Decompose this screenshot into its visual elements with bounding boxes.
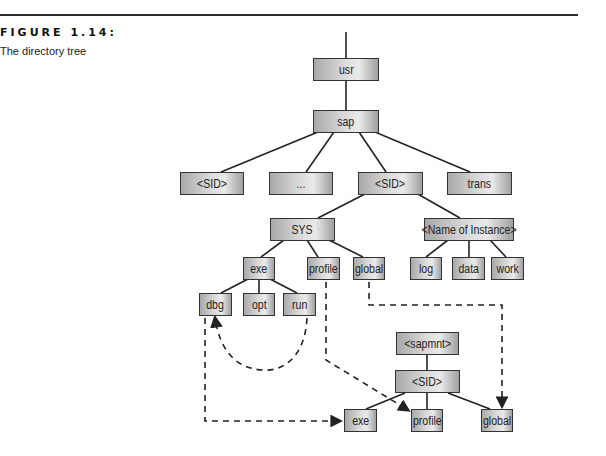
- node-global-2: global: [481, 409, 513, 432]
- node-exe: exe: [243, 257, 275, 280]
- node-sid-1: <SID>: [180, 172, 244, 195]
- node-log: log: [410, 257, 442, 280]
- node-dbg: dbg: [199, 293, 232, 316]
- node-name-of-instance: <Name of Instance>: [424, 218, 514, 241]
- node-work: work: [491, 257, 524, 280]
- node-sys: SYS: [270, 218, 335, 241]
- node-data: data: [452, 257, 485, 280]
- node-profile-2: profile: [411, 409, 443, 432]
- node-sap: sap: [313, 110, 379, 133]
- node-global: global: [353, 257, 385, 280]
- node-ellipsis: ...: [269, 172, 333, 195]
- node-run: run: [283, 293, 316, 316]
- node-profile: profile: [307, 257, 340, 280]
- node-usr: usr: [313, 58, 379, 81]
- node-sid-3: <SID>: [395, 370, 460, 393]
- node-sapmnt: <sapmnt>: [396, 332, 459, 355]
- node-exe-2: exe: [344, 409, 377, 432]
- node-trans: trans: [447, 172, 512, 195]
- node-sid-2: <SID>: [358, 172, 423, 195]
- node-opt: opt: [243, 293, 275, 316]
